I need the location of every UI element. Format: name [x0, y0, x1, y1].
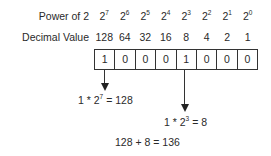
power-header: 27 — [94, 10, 115, 22]
bit-cell: 1 — [177, 50, 197, 69]
equation-bit3: 1 * 23 = 8 — [164, 116, 207, 128]
power-header: 20 — [238, 10, 259, 22]
bit-cell: 0 — [115, 50, 135, 69]
power-header: 22 — [197, 10, 218, 22]
decimal-value: 128 — [94, 31, 115, 43]
power-header: 25 — [135, 10, 156, 22]
power-header: 23 — [176, 10, 197, 22]
decimal-value: 8 — [176, 31, 197, 43]
bit-cell: 0 — [197, 50, 217, 69]
bit-cell: 0 — [136, 50, 156, 69]
arrow-down-icon — [181, 104, 189, 112]
power-header: 21 — [217, 10, 238, 22]
decimal-value: 64 — [115, 31, 136, 43]
bit-cell: 1 — [95, 50, 115, 69]
decimal-value: 32 — [135, 31, 156, 43]
bit-cell: 0 — [217, 50, 237, 69]
bit-grid: 1 0 0 0 1 0 0 0 — [94, 49, 258, 70]
decimal-value: 2 — [217, 31, 238, 43]
arrow-down-icon — [101, 83, 109, 91]
equation-bit7: 1 * 27 = 128 — [78, 94, 133, 106]
power-header: 26 — [115, 10, 136, 22]
power-of-2-label: Power of 2 — [39, 10, 89, 22]
power-header: 24 — [156, 10, 177, 22]
connector-line — [184, 70, 185, 105]
decimal-value: 4 — [197, 31, 218, 43]
decimal-value: 1 — [238, 31, 259, 43]
equation-total: 128 + 8 = 136 — [115, 136, 180, 148]
decimal-value: 16 — [156, 31, 177, 43]
bit-cell: 0 — [156, 50, 176, 69]
bit-cell: 0 — [238, 50, 257, 69]
decimal-value-label: Decimal Value — [22, 31, 89, 43]
connector-line — [104, 70, 105, 84]
